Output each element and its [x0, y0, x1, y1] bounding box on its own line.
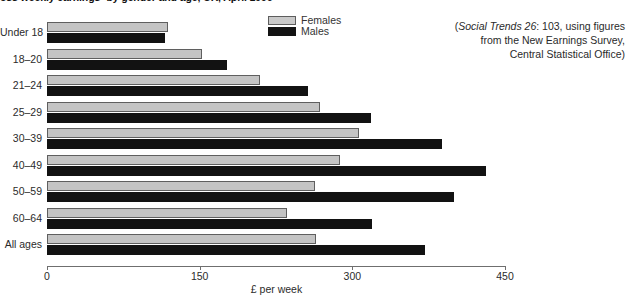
bar-females [47, 155, 340, 165]
bar-females [47, 181, 315, 191]
bar-males [47, 192, 454, 202]
y-axis-tick-label: 30–39 [0, 132, 42, 144]
bar-males [47, 33, 165, 43]
bar-group [47, 49, 505, 73]
page-title: oss weekly earnings¹ by gender and age, … [0, 0, 420, 3]
y-axis-tick-label: Under 18 [0, 26, 42, 38]
bar-females [47, 22, 168, 32]
x-axis-title: £ per week [47, 283, 506, 295]
bar-group [47, 128, 505, 152]
bar-males [47, 113, 371, 123]
y-axis-tick-label: All ages [0, 238, 42, 250]
bar-females [47, 208, 287, 218]
y-axis-tick-label: 25–29 [0, 106, 42, 118]
bar-males [47, 86, 308, 96]
bar-females [47, 49, 202, 59]
bar-males [47, 219, 372, 229]
x-axis-line [47, 266, 506, 267]
bar-group [47, 181, 505, 205]
bar-males [47, 139, 442, 149]
y-axis-labels: Under 1818–2021–2425–2930–3940–4950–5960… [0, 22, 42, 266]
bar-males [47, 166, 486, 176]
bar-females [47, 128, 359, 138]
y-axis-tick-label: 40–49 [0, 159, 42, 171]
y-axis-tick-label: 50–59 [0, 185, 42, 197]
x-axis-tick-label: 450 [496, 270, 514, 282]
source-note-citation: : 103, using figures [536, 20, 625, 32]
bar-females [47, 75, 260, 85]
bar-group [47, 208, 505, 232]
bar-males [47, 60, 227, 70]
bar-group [47, 155, 505, 179]
y-axis-tick-label: 18–20 [0, 53, 42, 65]
bar-females [47, 102, 320, 112]
bar-group [47, 75, 505, 99]
x-axis-tick-label: 300 [344, 270, 362, 282]
bar-group [47, 234, 505, 258]
bar-males [47, 245, 425, 255]
x-axis-tick-label: 150 [191, 270, 209, 282]
x-axis-tick-label: 0 [44, 270, 50, 282]
y-axis-tick-label: 21–24 [0, 79, 42, 91]
bar-group [47, 102, 505, 126]
bar-females [47, 234, 316, 244]
bar-group [47, 22, 505, 46]
y-axis-tick-label: 60–64 [0, 212, 42, 224]
plot-area [47, 22, 505, 266]
